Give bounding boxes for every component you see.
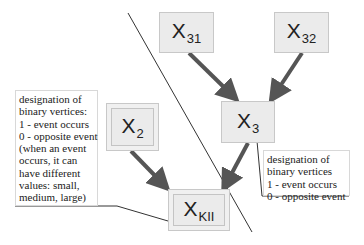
right-callout-line: binary vertices: [267, 165, 346, 177]
arrow-x32-to-x3: [273, 53, 302, 97]
right-callout-line: 1 - event occurs: [267, 178, 346, 190]
left-callout-line: values: small,: [19, 179, 94, 191]
diagram-canvas: X31 X32 X3 X2 XKII designation of binary…: [0, 0, 364, 245]
left-callout: designation of binary vertices: 1 - even…: [15, 90, 98, 206]
node-x3-label: X3: [237, 109, 259, 136]
node-x2: X2: [106, 103, 159, 151]
arrow-x31-to-x3: [189, 53, 234, 97]
arrow-x3-to-xkii: [225, 143, 248, 186]
node-x32: X32: [274, 12, 329, 53]
left-callout-line: 1 - event occurs: [19, 118, 94, 130]
left-callout-line: binary vertices:: [19, 105, 94, 117]
node-x2-label: X2: [121, 114, 143, 141]
right-callout-line: designation of: [267, 153, 346, 165]
node-x31-label: X31: [172, 19, 201, 46]
node-x3: X3: [221, 101, 275, 143]
node-xkii: XKII: [168, 189, 230, 231]
left-callout-line: occurs, it can: [19, 154, 94, 166]
arrow-x2-to-xkii: [131, 151, 165, 186]
left-callout-line: (when an event: [19, 142, 94, 154]
left-callout-line: have different: [19, 167, 94, 179]
node-x31: X31: [159, 12, 214, 53]
left-callout-line: medium, large): [19, 191, 94, 203]
right-callout-line: 0 - opposite event: [267, 190, 346, 202]
right-callout: designation of binary vertices 1 - event…: [263, 150, 350, 196]
left-callout-line: 0 - opposite event: [19, 130, 94, 142]
node-xkii-label: XKII: [184, 197, 215, 224]
left-callout-line: designation of: [19, 93, 94, 105]
left-callout-leader: [15, 206, 168, 221]
node-x32-label: X32: [287, 19, 316, 46]
